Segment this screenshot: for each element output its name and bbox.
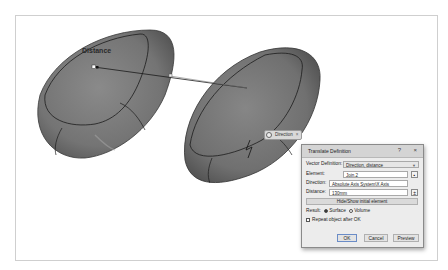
result-label: Result:	[306, 208, 321, 213]
direction-field[interactable]: Absolute Axis System\X Axis	[329, 180, 408, 187]
element-field[interactable]: Join.2	[343, 171, 408, 178]
repeat-object-label: Repeat object after OK	[312, 217, 361, 222]
distance-label: Distance:	[306, 188, 326, 196]
distance-field[interactable]: 130mm	[329, 189, 408, 196]
volume-radio-label[interactable]: Volume	[354, 208, 370, 213]
hide-show-initial-element-button[interactable]: Hide/Show initial element	[306, 198, 418, 205]
element-selector-button[interactable]: ▪	[411, 171, 418, 178]
ok-button[interactable]: OK	[337, 234, 357, 242]
element-label: Element:	[306, 170, 325, 178]
repeat-object-option[interactable]: Repeat object after OK	[306, 216, 361, 224]
dialog-title-bar[interactable]: Translate Definition ? ×	[302, 145, 423, 158]
distance-annotation: Distance	[82, 47, 111, 54]
volume-radio[interactable]	[349, 209, 353, 213]
direction-tag[interactable]: Direction×	[264, 130, 302, 140]
direction-label: Direction:	[306, 179, 326, 187]
distance-stepper[interactable]: ±	[411, 189, 418, 196]
surface-radio-label[interactable]: Surface	[329, 208, 346, 213]
close-icon[interactable]: ×	[413, 147, 417, 153]
chevron-down-icon: ▼	[412, 162, 416, 169]
vector-definition-label: Vector Definition:	[306, 160, 342, 168]
surface-radio[interactable]	[324, 209, 328, 213]
repeat-object-checkbox[interactable]	[306, 218, 310, 222]
vector-definition-select[interactable]: Direction, distance ▼	[343, 161, 419, 168]
dialog-title: Translate Definition	[308, 148, 351, 154]
direction-tag-label: Direction	[275, 132, 293, 137]
direction-icon	[266, 132, 272, 138]
close-icon[interactable]: ×	[296, 132, 299, 137]
preview-button[interactable]: Preview	[393, 234, 419, 242]
cancel-button[interactable]: Cancel	[364, 234, 388, 242]
result-group: Result: Surface Volume	[306, 207, 370, 215]
translate-definition-dialog: Translate Definition ? × Vector Definiti…	[301, 144, 424, 248]
translated-element-shape[interactable]	[184, 48, 320, 183]
help-icon[interactable]: ?	[398, 147, 401, 153]
vector-definition-value: Direction, distance	[346, 163, 383, 168]
